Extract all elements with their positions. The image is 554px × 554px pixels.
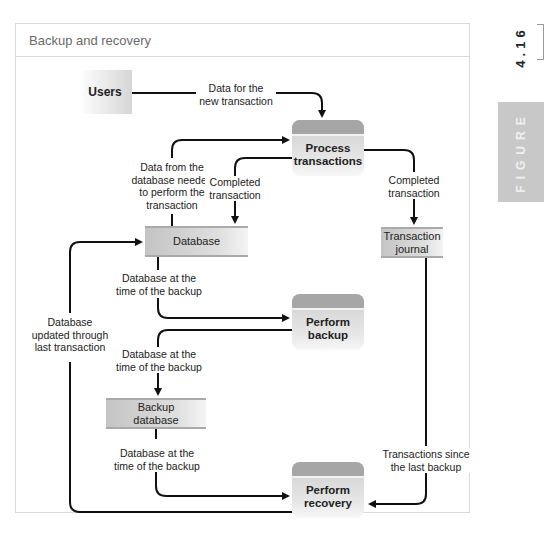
process-cap xyxy=(292,120,364,136)
process-transactions: Processtransactions xyxy=(292,120,364,176)
users-entity: Users xyxy=(78,70,132,114)
process-cap xyxy=(292,462,364,478)
transaction-journal-label: Transactionjournal xyxy=(383,230,440,256)
database-label: Database xyxy=(173,235,220,248)
flow-label-process-to-journal: Completedtransaction xyxy=(384,174,444,199)
flow-label-journal-to-recovery: Transactions sincethe last backup xyxy=(379,448,473,473)
process-transactions-label: Processtransactions xyxy=(292,136,364,174)
flow-label-recovery-to-database: Databaseupdated throughlast transaction xyxy=(27,316,113,354)
flow-label-database-to-backup: Database at thetime of the backup xyxy=(113,272,205,297)
perform-recovery: Performrecovery xyxy=(292,462,364,518)
database-store: Database xyxy=(145,226,248,257)
process-cap xyxy=(292,294,364,310)
perform-backup: Performbackup xyxy=(292,294,364,350)
transaction-journal-store: Transactionjournal xyxy=(381,227,443,258)
backup-database-store: Backupdatabase xyxy=(106,398,206,429)
flow-label-process-to-database: Completedtransaction xyxy=(205,176,265,201)
perform-recovery-label: Performrecovery xyxy=(292,478,364,516)
flow-label-backupdb-to-recovery: Database at thetime of the backup xyxy=(111,447,203,472)
users-label: Users xyxy=(88,85,121,99)
flow-label-backup-to-backupdb: Database at thetime of the backup xyxy=(113,348,205,373)
flow-label-users-to-process: Data for thenew transaction xyxy=(196,82,276,107)
perform-backup-label: Performbackup xyxy=(292,310,364,348)
backup-database-label: Backupdatabase xyxy=(133,401,178,427)
